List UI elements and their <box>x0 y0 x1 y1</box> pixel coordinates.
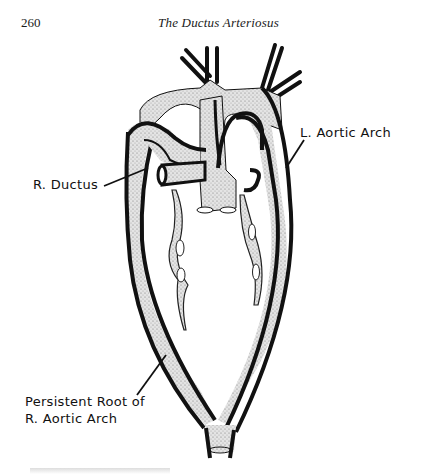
label-r-ductus: R. Ductus <box>33 176 98 193</box>
label-persistent-root-line2: R. Aortic Arch <box>25 410 145 427</box>
cut-off-caption <box>30 468 170 474</box>
pulmonary-branch-right <box>240 195 262 305</box>
label-persistent-root-line1: Persistent Root of <box>25 393 145 410</box>
pulmonary-branch-left <box>169 190 188 330</box>
label-persistent-root: Persistent Root of R. Aortic Arch <box>25 393 145 427</box>
label-l-aortic-arch: L. Aortic Arch <box>300 124 391 141</box>
